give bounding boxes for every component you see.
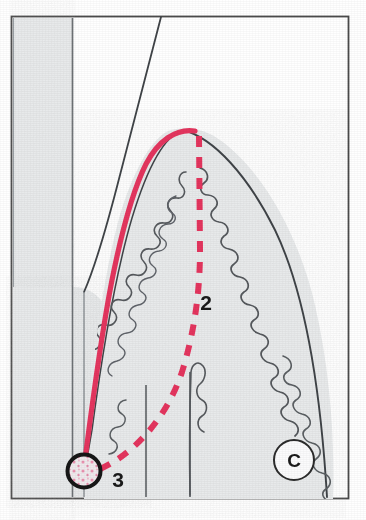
label-3-text: 3: [112, 468, 124, 491]
circled-marker-3: [68, 455, 101, 488]
circled-marker-c: C: [274, 440, 314, 480]
histology-figure: C 2 3: [0, 0, 366, 520]
figure-root: C 2 3: [0, 0, 366, 520]
label-2-text: 2: [200, 291, 212, 314]
label-c-text: C: [287, 450, 301, 471]
